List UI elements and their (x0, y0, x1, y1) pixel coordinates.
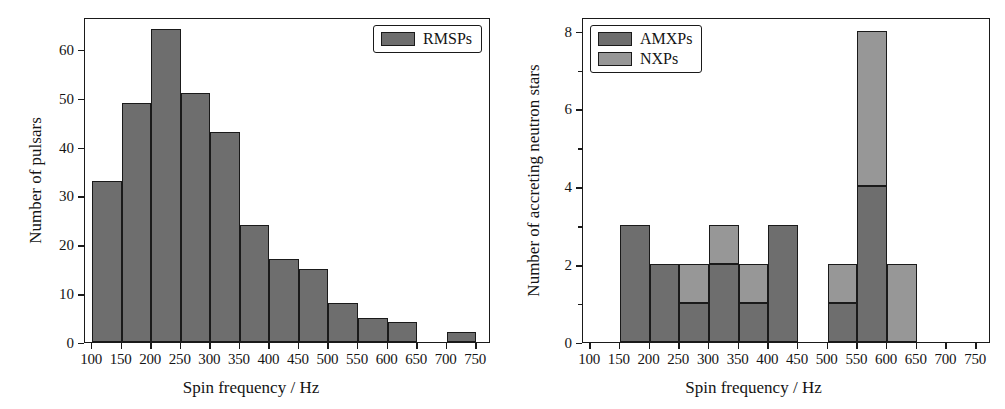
y-minor-tick-mark (578, 71, 582, 72)
x-tick-mark (649, 343, 650, 349)
histogram-bar-segment (122, 103, 152, 342)
histogram-bar (887, 264, 917, 342)
x-tick-mark (886, 343, 887, 349)
x-tick-label: 700 (435, 351, 457, 368)
histogram-bar-segment (828, 264, 858, 303)
x-tick-label: 550 (346, 351, 368, 368)
histogram-bar-segment (739, 264, 769, 303)
y-tick-mark (576, 32, 582, 33)
y-tick-label: 2 (538, 257, 572, 274)
left-plot-area (85, 19, 489, 342)
histogram-bar (269, 259, 299, 342)
y-minor-tick-mark (578, 304, 582, 305)
y-tick-mark (78, 245, 84, 246)
histogram-bar-segment (828, 303, 858, 342)
left-legend: RMSPs (373, 25, 482, 53)
x-tick-label: 100 (578, 351, 600, 368)
histogram-bar-segment (210, 132, 240, 342)
histogram-bar (679, 264, 709, 342)
legend-item-amxps: AMXPs (598, 31, 692, 47)
histogram-bar (122, 103, 152, 342)
histogram-bar-segment (181, 93, 211, 342)
x-tick-mark (619, 343, 620, 349)
x-tick-mark (239, 343, 240, 349)
histogram-bar (650, 264, 680, 342)
histogram-bar-segment (709, 225, 739, 264)
left-plot-frame: RMSPs (84, 18, 490, 343)
legend-swatch-icon (598, 52, 632, 66)
histogram-bar (358, 318, 388, 342)
y-tick-mark (576, 265, 582, 266)
x-tick-label: 650 (405, 351, 427, 368)
x-tick-label: 250 (667, 351, 689, 368)
y-tick-label: 60 (40, 41, 74, 58)
right-legend: AMXPsNXPs (590, 25, 702, 73)
histogram-bar-segment (299, 269, 329, 342)
histogram-bar-segment (269, 259, 299, 342)
right-panel: Number of accreting neutron stars AMXPsN… (502, 0, 1005, 409)
histogram-bar-segment (857, 186, 887, 342)
x-tick-label: 450 (786, 351, 808, 368)
x-tick-label: 700 (935, 351, 957, 368)
y-tick-label: 0 (40, 335, 74, 352)
x-tick-mark (357, 343, 358, 349)
histogram-bar-segment (679, 264, 709, 303)
y-tick-label: 10 (40, 286, 74, 303)
y-tick-mark (576, 343, 582, 344)
histogram-bar-segment (388, 322, 418, 342)
x-tick-label: 750 (464, 351, 486, 368)
histogram-bar (447, 332, 477, 342)
y-tick-label: 8 (538, 23, 572, 40)
x-tick-label: 600 (376, 351, 398, 368)
histogram-bar (709, 225, 739, 342)
histogram-bar (739, 264, 769, 342)
x-tick-mark (298, 343, 299, 349)
legend-label: NXPs (640, 51, 678, 67)
x-tick-label: 100 (80, 351, 102, 368)
histogram-bar (181, 93, 211, 342)
x-tick-label: 450 (287, 351, 309, 368)
right-plot-frame: AMXPsNXPs (582, 18, 990, 343)
histogram-bar-segment (240, 225, 270, 342)
y-tick-mark (78, 343, 84, 344)
legend-label: RMSPs (423, 31, 472, 47)
histogram-figure: Number of pulsars RMSPs 1001502002503003… (0, 0, 1005, 409)
histogram-bar (151, 29, 181, 342)
x-tick-mark (975, 343, 976, 349)
legend-swatch-icon (598, 32, 632, 46)
x-tick-label: 400 (756, 351, 778, 368)
x-tick-mark (475, 343, 476, 349)
x-tick-mark (268, 343, 269, 349)
y-tick-mark (78, 50, 84, 51)
y-minor-tick-mark (578, 148, 582, 149)
histogram-bar-segment (768, 225, 798, 342)
x-tick-mark (91, 343, 92, 349)
x-tick-label: 300 (697, 351, 719, 368)
x-tick-mark (708, 343, 709, 349)
histogram-bar (240, 225, 270, 342)
legend-item-rmsps: RMSPs (381, 31, 472, 47)
left-x-axis-title: Spin frequency / Hz (0, 378, 502, 398)
x-tick-label: 350 (228, 351, 250, 368)
left-panel: Number of pulsars RMSPs 1001502002503003… (0, 0, 502, 409)
x-tick-mark (856, 343, 857, 349)
y-tick-label: 4 (538, 179, 572, 196)
x-tick-mark (446, 343, 447, 349)
x-tick-label: 250 (169, 351, 191, 368)
x-tick-mark (738, 343, 739, 349)
y-tick-mark (78, 99, 84, 100)
histogram-bar-segment (857, 31, 887, 187)
x-tick-label: 400 (257, 351, 279, 368)
x-tick-label: 500 (317, 351, 339, 368)
histogram-bar-segment (620, 225, 650, 342)
x-tick-mark (767, 343, 768, 349)
x-tick-label: 300 (198, 351, 220, 368)
x-tick-mark (797, 343, 798, 349)
histogram-bar (299, 269, 329, 342)
x-tick-mark (589, 343, 590, 349)
x-tick-label: 150 (608, 351, 630, 368)
x-tick-mark (121, 343, 122, 349)
histogram-bar (210, 132, 240, 342)
right-x-axis-title: Spin frequency / Hz (502, 378, 1005, 398)
histogram-bar (620, 225, 650, 342)
